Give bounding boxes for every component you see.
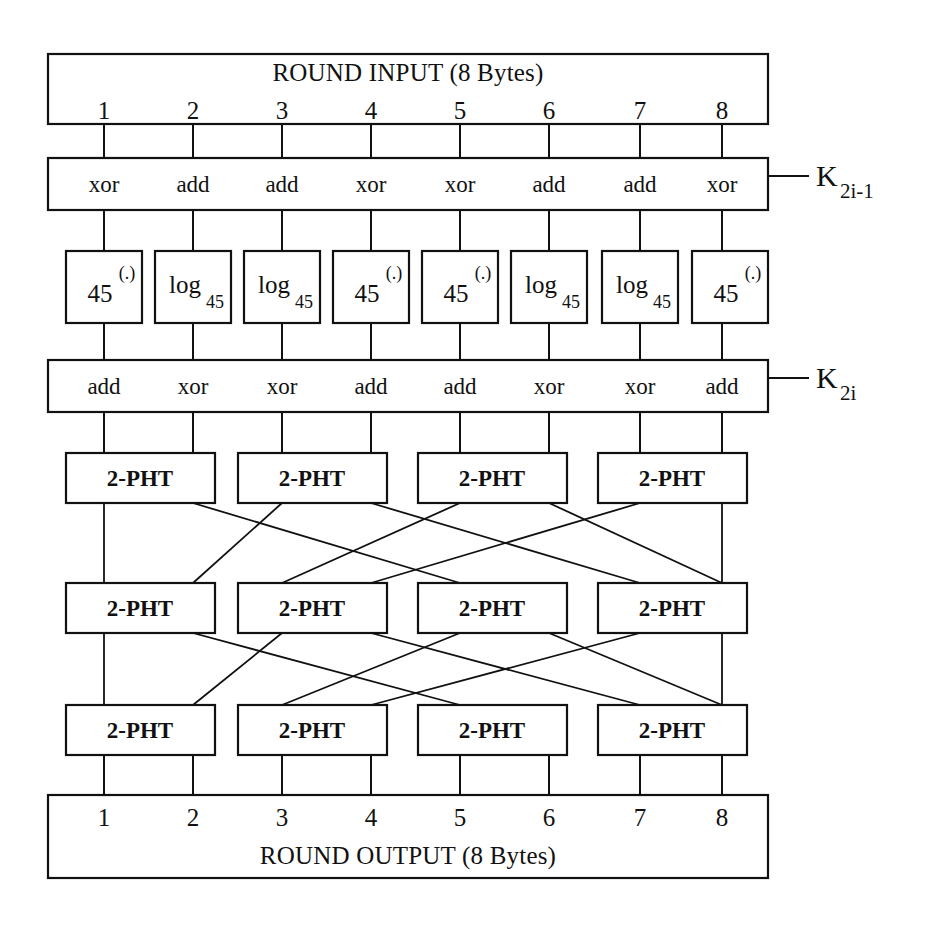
permutation-line — [549, 503, 722, 583]
key1-op-3: add — [265, 172, 299, 197]
permutation-line — [282, 503, 460, 583]
pht-box: 2-PHT — [66, 583, 215, 633]
output-byte-label-1: 1 — [98, 804, 111, 831]
nonlinear-cell-base: log — [169, 271, 201, 298]
pht-label: 2-PHT — [279, 596, 345, 621]
key2-op-7: xor — [625, 374, 656, 399]
key2-label-base: K — [816, 361, 838, 394]
wires-key1-to-nonlinear — [104, 210, 722, 251]
key1-op-6: add — [532, 172, 566, 197]
pht-row-2: 2-PHT 2-PHT 2-PHT 2-PHT — [66, 583, 747, 633]
input-byte-label-7: 7 — [634, 97, 647, 124]
key-layer-2-block: add xor xor add add xor xor add K 2i — [48, 360, 857, 412]
nonlinear-cell-superscript: (.) — [475, 263, 492, 284]
input-byte-label-8: 8 — [716, 97, 729, 124]
wires-nonlinear-to-key2 — [104, 323, 722, 360]
permutation-line — [549, 633, 722, 705]
key1-op-2: add — [176, 172, 210, 197]
wires-key2-to-pht1 — [104, 412, 722, 453]
round-input-title: ROUND INPUT (8 Bytes) — [272, 59, 543, 87]
round-structure-diagram: ROUND INPUT (8 Bytes) 1 2 3 4 5 6 7 8 xo… — [0, 0, 933, 928]
input-byte-label-5: 5 — [454, 97, 467, 124]
nonlinear-cell-superscript: (.) — [119, 263, 136, 284]
nonlinear-cell-base: log — [258, 271, 290, 298]
pht-box: 2-PHT — [418, 583, 567, 633]
nonlinear-cell-subscript: 45 — [562, 292, 580, 312]
nonlinear-cell-subscript: 45 — [295, 292, 313, 312]
permutation-line — [193, 503, 460, 583]
key1-label-base: K — [816, 159, 838, 192]
pht-label: 2-PHT — [459, 718, 525, 743]
nonlinear-cell-base: 45 — [88, 280, 113, 307]
input-byte-label-2: 2 — [187, 97, 200, 124]
nonlinear-cell-2: log 45 — [155, 251, 231, 323]
key2-op-8: add — [705, 374, 739, 399]
nonlinear-cell-4: 45 (.) — [333, 251, 409, 323]
permutation-network-2 — [104, 633, 722, 705]
pht-label: 2-PHT — [107, 596, 173, 621]
output-byte-label-5: 5 — [454, 804, 467, 831]
nonlinear-cell-3: log 45 — [244, 251, 320, 323]
pht-label: 2-PHT — [459, 466, 525, 491]
pht-box: 2-PHT — [598, 583, 747, 633]
pht-label: 2-PHT — [107, 718, 173, 743]
pht-box: 2-PHT — [238, 583, 387, 633]
nonlinear-cell-5: 45 (.) — [422, 251, 498, 323]
nonlinear-cell-8: 45 (.) — [692, 251, 768, 323]
nonlinear-cell-superscript: (.) — [745, 263, 762, 284]
key-layer-2-rect — [48, 360, 768, 412]
input-byte-label-1: 1 — [98, 97, 111, 124]
key2-op-4: add — [354, 374, 388, 399]
nonlinear-cell-7: log 45 — [602, 251, 678, 323]
permutation-line — [193, 633, 460, 705]
pht-label: 2-PHT — [459, 596, 525, 621]
pht-label: 2-PHT — [279, 718, 345, 743]
input-byte-label-3: 3 — [276, 97, 289, 124]
output-byte-label-8: 8 — [716, 804, 729, 831]
pht-box: 2-PHT — [418, 705, 567, 755]
key1-op-1: xor — [89, 172, 120, 197]
pht-label: 2-PHT — [639, 596, 705, 621]
permutation-line — [193, 503, 282, 583]
key-layer-1-block: xor add add xor xor add add xor K 2i-1 — [48, 158, 874, 210]
key1-label-subscript: 2i-1 — [840, 179, 874, 203]
round-output-block: 1 2 3 4 5 6 7 8 ROUND OUTPUT (8 Bytes) — [48, 795, 768, 878]
wires-input-to-key1 — [104, 124, 722, 158]
output-byte-label-3: 3 — [276, 804, 289, 831]
pht-box: 2-PHT — [418, 453, 567, 503]
key1-op-7: add — [623, 172, 657, 197]
nonlinear-cell-base: log — [525, 271, 557, 298]
pht-row-3: 2-PHT 2-PHT 2-PHT 2-PHT — [66, 705, 747, 755]
pht-box: 2-PHT — [598, 705, 747, 755]
key2-op-6: xor — [534, 374, 565, 399]
output-byte-label-7: 7 — [634, 804, 647, 831]
pht-box: 2-PHT — [598, 453, 747, 503]
nonlinear-cell-base: 45 — [714, 280, 739, 307]
key2-op-2: xor — [178, 374, 209, 399]
nonlinear-cell-subscript: 45 — [206, 292, 224, 312]
pht-box: 2-PHT — [238, 705, 387, 755]
nonlinear-cell-base: 45 — [355, 280, 380, 307]
nonlinear-cell-subscript: 45 — [653, 292, 671, 312]
output-byte-label-2: 2 — [187, 804, 200, 831]
nonlinear-cell-6: log 45 — [511, 251, 587, 323]
pht-box: 2-PHT — [66, 453, 215, 503]
permutation-line — [282, 633, 460, 705]
diagram-canvas: ROUND INPUT (8 Bytes) 1 2 3 4 5 6 7 8 xo… — [0, 0, 933, 928]
input-byte-label-4: 4 — [365, 97, 378, 124]
key1-op-4: xor — [356, 172, 387, 197]
nonlinear-cell-superscript: (.) — [386, 263, 403, 284]
wires-pht3-to-output — [104, 755, 722, 795]
permutation-line — [193, 633, 282, 705]
key2-op-1: add — [87, 374, 121, 399]
input-byte-label-6: 6 — [543, 97, 556, 124]
key1-op-5: xor — [445, 172, 476, 197]
key2-op-5: add — [443, 374, 477, 399]
pht-label: 2-PHT — [107, 466, 173, 491]
round-output-title: ROUND OUTPUT (8 Bytes) — [260, 842, 556, 870]
output-byte-label-4: 4 — [365, 804, 378, 831]
key2-label-subscript: 2i — [840, 381, 857, 405]
nonlinear-cell-1: 45 (.) — [66, 251, 142, 323]
pht-label: 2-PHT — [639, 718, 705, 743]
output-byte-label-6: 6 — [543, 804, 556, 831]
